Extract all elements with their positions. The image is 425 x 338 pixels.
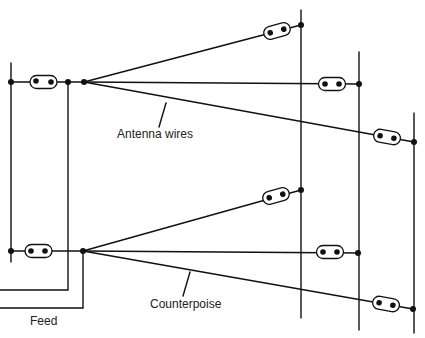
node-feed-upper — [65, 79, 71, 85]
antenna-wire-2 — [84, 82, 359, 84]
feed-line-1 — [0, 82, 68, 290]
antenna-wires-label: Antenna wires — [117, 127, 193, 141]
node-pole-1-upper — [298, 22, 304, 28]
node-pole-3-lower — [410, 306, 416, 312]
counterpoise-leader — [183, 272, 190, 296]
node-fan-upper — [81, 79, 87, 85]
node-pole-2-upper — [356, 81, 362, 87]
counterpoise-label: Counterpoise — [150, 297, 221, 311]
counterpoise-wire-3 — [83, 251, 413, 309]
insulator-antenna-1 — [262, 21, 291, 41]
antenna-wires-leader — [159, 103, 166, 127]
feed-label: Feed — [30, 314, 57, 328]
antenna-diagram — [0, 0, 425, 338]
insulator-counterpoise-3 — [372, 295, 401, 312]
node-fan-lower — [80, 248, 86, 254]
node-pole-2-lower — [355, 250, 361, 256]
insulator-counterpoise-1 — [261, 186, 290, 206]
node-left-upper — [8, 79, 14, 85]
feed-line-2 — [0, 251, 83, 308]
node-pole-1-lower — [298, 187, 304, 193]
node-left-lower — [8, 248, 14, 254]
insulator-antenna-3 — [373, 128, 402, 145]
node-pole-3-upper — [411, 139, 417, 145]
